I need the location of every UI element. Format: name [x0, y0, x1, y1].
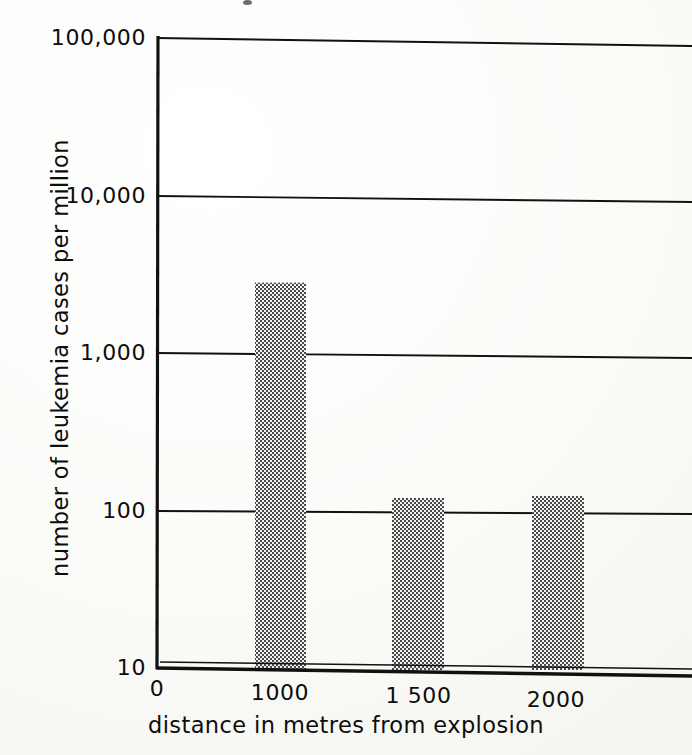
x-axis-title: distance in metres from explosion [0, 712, 692, 738]
bar-2000 [532, 496, 584, 670]
y-tick-label-100: 100 [6, 498, 146, 523]
y-tick-label-10000: 10,000 [6, 183, 146, 208]
y-tick-label-100000: 100,000 [6, 25, 146, 50]
bar-series [255, 283, 584, 670]
x-tick-label-0: 0 [132, 676, 182, 701]
y-tick-label-1000: 1,000 [6, 340, 146, 365]
x-tick-label-1500: 1 500 [366, 683, 471, 708]
bar-1500 [392, 498, 444, 670]
gridlines [157, 38, 692, 514]
y-tick-label-10: 10 [6, 655, 146, 680]
gridline-10000 [157, 196, 692, 202]
gridline-1000 [157, 353, 692, 358]
y-axis-spine [157, 36, 158, 669]
chart-plot-area [0, 0, 692, 755]
gridline-100000 [157, 38, 692, 46]
x-tick-label-1000: 1000 [230, 680, 330, 705]
bar-1000 [255, 283, 306, 670]
chart-figure: 100,000 10,000 1,000 100 10 0 1000 1 500… [0, 0, 692, 755]
x-tick-label-2000: 2000 [506, 687, 606, 712]
y-axis-title: number of leukemia cases per million [47, 38, 73, 678]
